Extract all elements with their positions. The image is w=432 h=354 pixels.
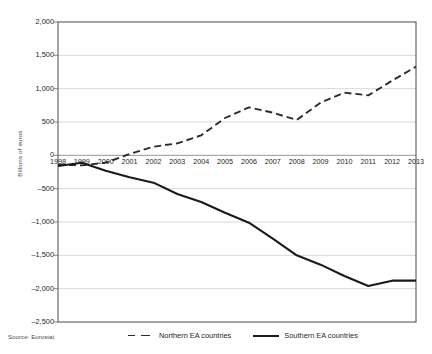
x-tick-label: 2009 xyxy=(310,157,332,166)
x-tick-label: 2007 xyxy=(262,157,284,166)
x-tick-label: 2002 xyxy=(142,157,164,166)
legend-label-northern: Northern EA countries xyxy=(159,331,231,340)
x-tick-label: 2006 xyxy=(238,157,260,166)
x-tick-label: 2000 xyxy=(95,157,117,166)
y-tick-label: 1,000 xyxy=(8,84,54,93)
chart-legend: Northern EA countries Southern EA countr… xyxy=(128,331,358,340)
x-tick-label: 1999 xyxy=(71,157,93,166)
x-tick-label: 2013 xyxy=(405,157,427,166)
plot-area xyxy=(0,0,432,354)
x-tick-label: 2004 xyxy=(190,157,212,166)
solid-line-swatch-icon xyxy=(253,332,279,339)
y-tick-label: 500 xyxy=(8,117,54,126)
x-tick-label: 2012 xyxy=(381,157,403,166)
source-note: Source: Eurostat xyxy=(8,334,54,340)
y-tick-label: –2,000 xyxy=(8,284,54,293)
series-lines xyxy=(58,67,416,286)
x-tick-label: 2008 xyxy=(286,157,308,166)
y-tick-label: –500 xyxy=(8,184,54,193)
y-tick-label: 1,500 xyxy=(8,50,54,59)
y-axis-tick-labels: 2,0001,5001,0005000–500–1,000–1,500–2,00… xyxy=(0,0,54,354)
y-tick-label: 2,000 xyxy=(8,17,54,26)
dashed-line-swatch-icon xyxy=(128,332,154,339)
legend-entry-southern: Southern EA countries xyxy=(253,331,358,340)
x-tick-label: 2001 xyxy=(119,157,141,166)
series-line-northern xyxy=(58,67,416,166)
x-tick-label: 2003 xyxy=(166,157,188,166)
y-tick-label: –1,500 xyxy=(8,250,54,259)
x-tick-label: 2005 xyxy=(214,157,236,166)
chart-figure: Billions of euros 2,0001,5001,0005000–50… xyxy=(0,0,432,354)
x-tick-label: 2011 xyxy=(357,157,379,166)
y-tick-label: –2,500 xyxy=(8,317,54,326)
x-tick-label: 2010 xyxy=(333,157,355,166)
y-tick-label: –1,000 xyxy=(8,217,54,226)
legend-label-southern: Southern EA countries xyxy=(284,331,358,340)
series-line-southern xyxy=(58,163,416,286)
x-tick-label: 1998 xyxy=(47,157,69,166)
legend-entry-northern: Northern EA countries xyxy=(128,331,231,340)
